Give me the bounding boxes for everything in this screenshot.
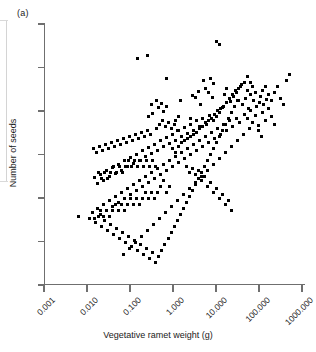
data-point: [93, 176, 96, 179]
data-point: [94, 221, 97, 224]
data-point: [189, 153, 192, 156]
data-point: [173, 225, 176, 228]
x-axis-tick: [129, 285, 130, 292]
data-point: [98, 145, 101, 148]
data-point: [212, 82, 215, 85]
y-axis-tick: [38, 154, 45, 155]
data-point: [127, 235, 130, 238]
data-point: [188, 171, 191, 174]
data-point: [112, 233, 115, 236]
data-point: [222, 105, 225, 108]
data-point: [150, 171, 153, 174]
data-point: [143, 135, 146, 138]
data-point: [191, 167, 194, 170]
data-point: [273, 91, 276, 94]
data-point: [139, 159, 142, 162]
data-point: [158, 217, 161, 220]
data-point: [167, 121, 170, 124]
data-point: [177, 145, 180, 148]
data-point: [158, 123, 161, 126]
data-point: [180, 151, 183, 154]
data-point: [174, 155, 177, 158]
data-point: [159, 185, 162, 188]
data-point: [261, 111, 264, 114]
data-point: [115, 171, 118, 174]
data-point: [246, 117, 249, 120]
data-point: [202, 79, 205, 82]
data-point: [182, 193, 185, 196]
data-point: [162, 145, 165, 148]
data-point: [209, 181, 212, 184]
y-axis-tick: [38, 197, 45, 198]
data-point: [242, 133, 245, 136]
y-axis-tick: [38, 67, 45, 68]
data-point: [246, 89, 249, 92]
data-point: [156, 149, 159, 152]
data-point: [203, 165, 206, 168]
x-axis-tick: [43, 285, 44, 292]
data-point: [125, 141, 128, 144]
data-point: [171, 165, 174, 168]
data-point: [200, 171, 203, 174]
data-point: [131, 139, 134, 142]
data-point: [177, 115, 180, 118]
data-point: [176, 129, 179, 132]
data-point: [212, 163, 215, 166]
data-point: [123, 209, 126, 212]
data-point: [203, 175, 206, 178]
data-point: [285, 79, 288, 82]
data-point: [121, 171, 124, 174]
data-point: [179, 213, 182, 216]
figure-panel: (a) 0.0010.0100.1001.00010.000100.000100…: [0, 0, 316, 352]
data-point: [116, 139, 119, 142]
x-axis-tick: [86, 285, 87, 292]
data-point: [122, 253, 125, 256]
data-point: [230, 145, 233, 148]
data-point: [185, 165, 188, 168]
data-point: [282, 103, 285, 106]
data-point: [267, 107, 270, 110]
data-point: [213, 113, 216, 116]
data-point: [235, 117, 238, 120]
data-point: [146, 54, 149, 57]
data-point: [150, 191, 153, 194]
data-point: [257, 124, 260, 127]
x-axis-title: Vegetative ramet weight (g): [0, 330, 316, 340]
data-point: [109, 171, 112, 174]
page-border-line-top: [0, 20, 8, 21]
data-point: [150, 152, 153, 155]
data-point: [243, 81, 246, 84]
data-point: [153, 197, 156, 200]
data-point: [138, 203, 141, 206]
data-point: [132, 183, 135, 186]
data-point: [177, 161, 180, 164]
data-point: [173, 123, 176, 126]
data-point: [162, 179, 165, 182]
data-point: [91, 211, 94, 214]
data-point: [164, 211, 167, 214]
data-point: [212, 147, 215, 150]
data-point: [231, 125, 234, 128]
data-point: [210, 131, 213, 134]
data-point: [264, 119, 267, 122]
data-point: [213, 137, 216, 140]
data-point: [159, 173, 162, 176]
data-point: [124, 165, 127, 168]
data-point: [224, 123, 227, 126]
data-point: [228, 97, 231, 100]
data-point: [104, 143, 107, 146]
panel-label: (a): [17, 8, 29, 18]
data-point: [114, 195, 117, 198]
data-point: [165, 191, 168, 194]
data-point: [164, 125, 167, 128]
data-point: [141, 149, 144, 152]
data-point: [183, 126, 186, 129]
data-point: [233, 105, 236, 108]
data-point: [218, 135, 221, 138]
data-point: [161, 119, 164, 122]
data-point: [249, 93, 252, 96]
data-point: [195, 149, 198, 152]
data-point: [241, 103, 244, 106]
data-point: [151, 251, 154, 254]
data-point: [102, 215, 105, 218]
